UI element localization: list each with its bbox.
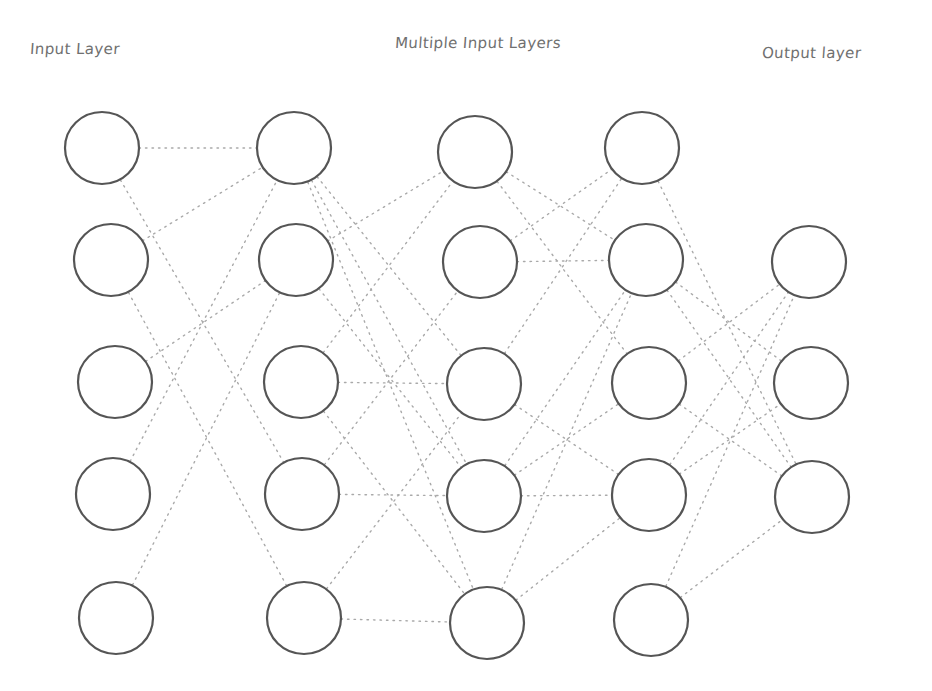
- hidden-2-node-5: [450, 587, 524, 659]
- connection-line: [339, 494, 447, 495]
- connection-line: [658, 181, 796, 463]
- output-node-3: [775, 461, 849, 533]
- connection-line: [515, 404, 619, 475]
- input-node-4: [76, 458, 150, 530]
- output-node-2: [774, 347, 848, 419]
- neuron-nodes: [65, 112, 849, 659]
- hidden-3-node-5: [614, 584, 688, 656]
- input-node-2: [74, 224, 148, 296]
- connection-line: [121, 180, 284, 462]
- connection-line: [146, 281, 266, 362]
- hidden-2-node-3: [447, 348, 521, 420]
- connection-line: [516, 518, 620, 600]
- connection-line: [680, 520, 782, 598]
- connection-line: [510, 169, 611, 240]
- input-node-5: [79, 582, 153, 654]
- connection-line: [133, 293, 280, 585]
- hidden-1-node-4: [265, 458, 339, 530]
- connection-line: [676, 282, 782, 361]
- hidden-1-node-1: [257, 112, 331, 184]
- connection-line: [666, 296, 794, 586]
- neural-network-diagram: [0, 0, 932, 691]
- connection-line: [143, 167, 263, 240]
- connection-line: [517, 260, 609, 261]
- hidden-3-node-1: [605, 112, 679, 184]
- connection-line: [328, 171, 444, 241]
- connection-line: [679, 404, 780, 474]
- hidden-2-node-2: [443, 226, 517, 298]
- connection-line: [505, 291, 625, 466]
- connection-line: [506, 172, 614, 240]
- connection-line: [521, 495, 612, 496]
- connection-line: [130, 181, 277, 461]
- input-node-1: [65, 112, 139, 184]
- output-node-1: [772, 226, 846, 298]
- hidden-1-node-3: [264, 346, 338, 418]
- hidden-2-node-1: [438, 116, 512, 188]
- connection-line: [327, 413, 462, 588]
- hidden-1-node-2: [259, 224, 333, 296]
- hidden-3-node-2: [609, 224, 683, 296]
- hidden-1-node-5: [267, 582, 341, 654]
- connection-line: [502, 294, 631, 589]
- hidden-2-node-4: [447, 460, 521, 532]
- connection-line: [338, 382, 447, 383]
- hidden-3-node-4: [612, 459, 686, 531]
- connection-line: [325, 291, 458, 464]
- connection-line: [505, 179, 622, 354]
- input-node-3: [78, 346, 152, 418]
- connection-line: [679, 404, 781, 476]
- hidden-3-node-3: [612, 347, 686, 419]
- connection-line: [341, 619, 450, 622]
- connection-line: [129, 293, 287, 586]
- connection-line: [312, 181, 467, 464]
